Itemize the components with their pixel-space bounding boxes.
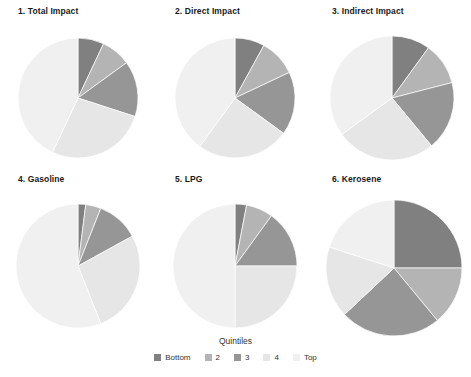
panel-title: 4. Gasoline: [0, 172, 157, 188]
legend-item[interactable]: 4: [263, 353, 278, 362]
pie-svg-4: [0, 188, 157, 338]
pie-lpg: [157, 188, 314, 338]
legend-item[interactable]: 3: [234, 353, 249, 362]
pie-svg-2: [157, 20, 314, 170]
legend-title: Quintiles: [0, 336, 471, 347]
pie-chart-figure: 1. Total Impact 2. Direct Impact 3. Indi…: [0, 0, 471, 377]
legend-item[interactable]: Bottom: [154, 353, 190, 362]
pie-slice: [235, 266, 297, 328]
legend-swatch-icon: [234, 354, 241, 361]
legend-swatch-icon: [205, 354, 212, 361]
panel-title: 6. Kerosene: [314, 172, 471, 188]
panel-title: 2. Direct Impact: [157, 4, 314, 20]
pie-total-impact: [0, 20, 157, 170]
pie-direct-impact: [157, 20, 314, 170]
legend-item-label: Bottom: [165, 353, 190, 362]
panel-title: 1. Total Impact: [0, 4, 157, 20]
legend-item-label: 3: [245, 353, 249, 362]
pie-gasoline: [0, 188, 157, 338]
panel-total-impact: 1. Total Impact: [0, 4, 157, 172]
pie-kerosene: [314, 188, 471, 338]
legend-swatch-icon: [154, 354, 161, 361]
pie-slice: [173, 204, 235, 328]
panel-kerosene: 6. Kerosene: [314, 172, 471, 340]
legend-swatch-icon: [293, 354, 300, 361]
legend-item[interactable]: 2: [205, 353, 220, 362]
panel-gasoline: 4. Gasoline: [0, 172, 157, 340]
legend-item[interactable]: Top: [293, 353, 317, 362]
legend-item-label: 2: [216, 353, 220, 362]
pie-indirect-impact: [314, 20, 471, 170]
panel-indirect-impact: 3. Indirect Impact: [314, 4, 471, 172]
pie-svg-1: [0, 20, 157, 170]
panel-direct-impact: 2. Direct Impact: [157, 4, 314, 172]
legend: Quintiles Bottom234Top: [0, 336, 471, 362]
panel-lpg: 5. LPG: [157, 172, 314, 340]
legend-item-label: Top: [304, 353, 317, 362]
pie-slice: [394, 200, 462, 268]
legend-items: Bottom234Top: [0, 353, 471, 362]
pie-svg-5: [157, 188, 314, 338]
legend-item-label: 4: [274, 353, 278, 362]
panel-title: 5. LPG: [157, 172, 314, 188]
panel-title: 3. Indirect Impact: [314, 4, 471, 20]
legend-swatch-icon: [263, 354, 270, 361]
pie-svg-6: [314, 188, 471, 345]
pie-svg-3: [314, 20, 471, 170]
